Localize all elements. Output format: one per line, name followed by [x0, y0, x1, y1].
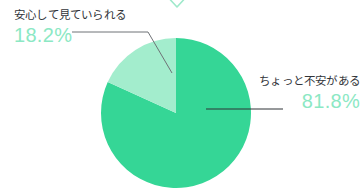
pie-chart-figure: 安心して見ていられる 18.2% ちょっと不安がある 81.8%	[0, 0, 364, 195]
slice-label-major-title: ちょっと不安がある	[252, 74, 360, 89]
slice-label-minor: 安心して見ていられる 18.2%	[14, 8, 154, 47]
slice-label-major-value: 81.8%	[252, 90, 360, 113]
slice-label-minor-value: 18.2%	[14, 24, 154, 47]
slice-label-major: ちょっと不安がある 81.8%	[252, 74, 360, 113]
slice-label-minor-title: 安心して見ていられる	[14, 8, 154, 23]
